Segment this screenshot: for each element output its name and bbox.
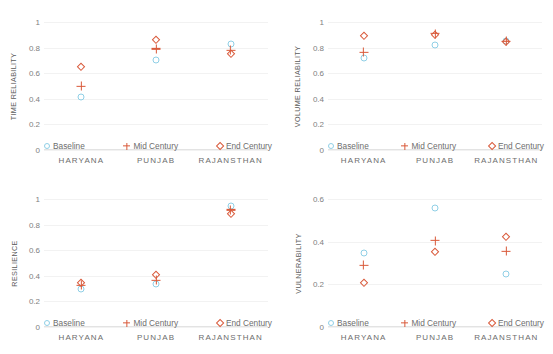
data-point <box>432 249 438 255</box>
plus-marker-icon <box>359 261 368 270</box>
chart-panel: TIME RELIABILITY00.20.40.60.81BaselineMi… <box>0 0 280 177</box>
plus-marker-icon <box>502 247 511 256</box>
data-point <box>360 250 367 257</box>
data-point <box>432 32 438 38</box>
legend-item[interactable]: Baseline <box>328 318 369 328</box>
circle-marker-icon <box>432 42 439 49</box>
y-tick-label: 0 <box>320 146 324 155</box>
legend-label: Mid Century <box>411 318 456 328</box>
y-tick-label: 1 <box>320 18 324 27</box>
legend-item[interactable]: Mid Century <box>401 141 456 151</box>
diamond-marker-icon <box>487 319 496 328</box>
data-points-layer <box>44 199 268 327</box>
data-point <box>359 261 368 270</box>
plus-marker-icon <box>359 48 368 57</box>
plot-area <box>328 22 542 150</box>
plus-marker-icon <box>77 82 86 91</box>
data-point <box>432 204 439 211</box>
x-tick-label: PUNJAB <box>119 156 194 165</box>
y-tick-label: 0.8 <box>29 43 40 52</box>
legend-item[interactable]: End Century <box>489 141 544 151</box>
data-point <box>228 51 234 57</box>
legend-item[interactable]: Mid Century <box>123 318 178 328</box>
circle-marker-icon <box>360 250 367 257</box>
diamond-marker-icon <box>431 248 440 257</box>
plus-marker-icon <box>401 320 408 327</box>
y-tick-label: 0 <box>36 146 40 155</box>
circle-marker-icon <box>78 93 85 100</box>
legend-item[interactable]: Baseline <box>44 141 85 151</box>
legend-item[interactable]: Mid Century <box>123 141 178 151</box>
diamond-marker-icon <box>359 279 368 288</box>
data-point <box>228 211 234 217</box>
x-tick-label: PUNJAB <box>399 333 470 342</box>
y-tick-label: 0.6 <box>313 69 324 78</box>
data-points-layer <box>328 199 542 327</box>
legend-item[interactable]: End Century <box>489 318 544 328</box>
y-tick-label: 1 <box>36 195 40 204</box>
y-tick-label: 0.6 <box>313 195 324 204</box>
y-tick-label: 0.4 <box>313 237 324 246</box>
diamond-marker-icon <box>215 319 224 328</box>
diamond-marker-icon <box>431 30 440 39</box>
chart-legend: BaselineMid CenturyEnd Century <box>44 318 272 328</box>
data-point <box>78 64 84 70</box>
y-tick-label: 0.4 <box>313 94 324 103</box>
x-axis-labels: HARYANAPUNJABRAJANSTHAN <box>328 333 542 342</box>
y-tick-label: 0.6 <box>29 69 40 78</box>
data-point <box>78 280 84 286</box>
data-point <box>432 42 439 49</box>
data-point <box>77 82 86 91</box>
y-axis-ticks: 00.20.40.60.81 <box>0 22 40 150</box>
y-tick-label: 0.2 <box>313 120 324 129</box>
legend-label: Mid Century <box>133 141 178 151</box>
data-point <box>361 280 367 286</box>
circle-marker-icon <box>328 320 334 326</box>
legend-item[interactable]: Mid Century <box>401 318 456 328</box>
legend-label: Mid Century <box>411 141 456 151</box>
legend-item[interactable]: End Century <box>217 318 272 328</box>
data-point <box>78 93 85 100</box>
y-tick-label: 0.2 <box>29 120 40 129</box>
y-axis-ticks: 00.20.40.60.81 <box>284 22 324 150</box>
circle-marker-icon <box>328 143 334 149</box>
x-axis-labels: HARYANAPUNJABRAJANSTHAN <box>328 156 542 165</box>
plus-marker-icon <box>123 320 130 327</box>
y-tick-label: 0.2 <box>313 280 324 289</box>
diamond-marker-icon <box>215 142 224 151</box>
legend-label: Baseline <box>337 141 369 151</box>
y-tick-label: 0 <box>320 323 324 332</box>
y-tick-label: 1 <box>36 18 40 27</box>
legend-item[interactable]: End Century <box>217 141 272 151</box>
diamond-marker-icon <box>152 36 161 45</box>
x-tick-label: RAJANSTHAN <box>471 333 542 342</box>
plus-marker-icon <box>431 236 440 245</box>
data-point <box>361 33 367 39</box>
legend-item[interactable]: Baseline <box>328 141 369 151</box>
legend-label: End Century <box>498 141 544 151</box>
legend-label: End Century <box>226 141 272 151</box>
data-point <box>152 44 161 53</box>
legend-item[interactable]: Baseline <box>44 318 85 328</box>
x-tick-label: HARYANA <box>328 156 399 165</box>
circle-marker-icon <box>432 204 439 211</box>
chart-legend: BaselineMid CenturyEnd Century <box>328 141 544 151</box>
y-tick-label: 0 <box>36 323 40 332</box>
diamond-marker-icon <box>77 62 86 71</box>
y-tick-label: 0.6 <box>29 246 40 255</box>
data-point <box>153 37 159 43</box>
chart-legend: BaselineMid CenturyEnd Century <box>44 141 272 151</box>
chart-panel: RESILIENCE00.20.40.60.81BaselineMid Cent… <box>0 177 280 354</box>
y-axis-ticks: 00.20.40.6 <box>284 199 324 327</box>
chart-panel: VULNERABILITY00.20.40.6BaselineMid Centu… <box>280 177 553 354</box>
diamond-marker-icon <box>77 278 86 287</box>
x-tick-label: HARYANA <box>44 333 119 342</box>
data-points-layer <box>328 22 542 150</box>
diamond-marker-icon <box>487 142 496 151</box>
x-axis-labels: HARYANAPUNJABRAJANSTHAN <box>44 156 268 165</box>
plot-area <box>328 199 542 327</box>
data-point <box>503 270 510 277</box>
legend-label: Mid Century <box>133 318 178 328</box>
figure-grid: TIME RELIABILITY00.20.40.60.81BaselineMi… <box>0 0 553 354</box>
x-tick-label: RAJANSTHAN <box>471 156 542 165</box>
